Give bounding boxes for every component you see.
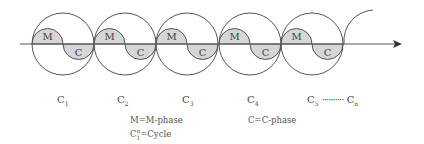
- cycle-label-2: C2: [117, 94, 128, 107]
- c-phase-letter: C: [137, 47, 145, 58]
- cycle-label-3: C3: [182, 94, 193, 107]
- c-phase-letter: C: [75, 47, 83, 58]
- cell-cycle-diagram: MCMCMCMCMC: [0, 0, 424, 144]
- cycle-label-sub: 2: [125, 100, 129, 107]
- legend-cycle-text: =Cycle: [140, 129, 171, 139]
- legend-cycle: Cn1=Cycle: [130, 127, 171, 141]
- next-cycle-arc: [344, 10, 373, 44]
- cycle-label-n-sub: n: [354, 100, 358, 107]
- cycle-label-text: C: [247, 94, 255, 105]
- c-phase-letter: C: [199, 47, 207, 58]
- legend-m-phase: M=M-phase: [130, 115, 183, 125]
- cycle-label-5-to-n: C5 ·········· Cn: [307, 94, 358, 107]
- cycle-label-sub: 4: [255, 100, 259, 107]
- m-phase-letter: M: [166, 31, 176, 42]
- cycle-label-text: C: [117, 94, 125, 105]
- cycle-label-sub: 3: [190, 100, 194, 107]
- m-phase-letter: M: [229, 31, 239, 42]
- m-phase-letter: M: [104, 31, 114, 42]
- c-phase-letter: C: [262, 47, 270, 58]
- cycle-label-text: C: [307, 94, 315, 105]
- continuation-dots: ··········: [322, 94, 344, 105]
- cycle-label-sub: 1: [65, 100, 69, 107]
- m-phase-letter: M: [42, 31, 52, 42]
- legend-c-phase: C=C-phase: [248, 115, 296, 125]
- m-phase-letter: M: [291, 31, 301, 42]
- cycle-label-1: C1: [57, 94, 68, 107]
- cycle-label-text: C: [57, 94, 65, 105]
- c-phase-letter: C: [324, 47, 332, 58]
- cycle-label-text: C: [182, 94, 190, 105]
- cycle-label-4: C4: [247, 94, 258, 107]
- cycle-label-sub: 5: [315, 100, 319, 107]
